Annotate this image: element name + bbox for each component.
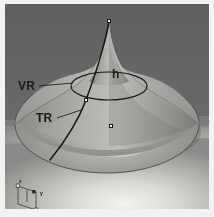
- figure-image: VR TR h z y x: [0, 0, 214, 217]
- apex-marker: [107, 19, 111, 23]
- label-tr: TR: [36, 112, 52, 124]
- intersection-marker: [84, 98, 88, 102]
- figure-frame: VR TR h z y x: [5, 4, 209, 209]
- label-vr: VR: [18, 80, 35, 92]
- base-center-marker: [109, 124, 113, 128]
- label-h: h: [112, 68, 119, 80]
- axis-label-y: y: [40, 191, 43, 196]
- surface-render: [5, 4, 209, 209]
- axis-label-z: z: [19, 179, 22, 184]
